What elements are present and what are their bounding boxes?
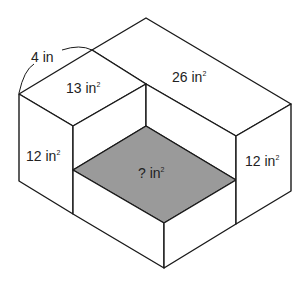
left-top-area-label: 13 in2 bbox=[66, 80, 100, 96]
isometric-prism-diagram: 4 in 13 in2 26 in2 12 in2 12 in2 ? in2 bbox=[0, 0, 305, 286]
left-front-area-label: 12 in2 bbox=[26, 148, 60, 164]
right-side-area-label: 12 in2 bbox=[245, 153, 279, 169]
dimension-arc-right bbox=[62, 47, 92, 50]
edge-length-label: 4 in bbox=[31, 49, 54, 65]
back-top-area-label: 26 in2 bbox=[172, 69, 206, 85]
